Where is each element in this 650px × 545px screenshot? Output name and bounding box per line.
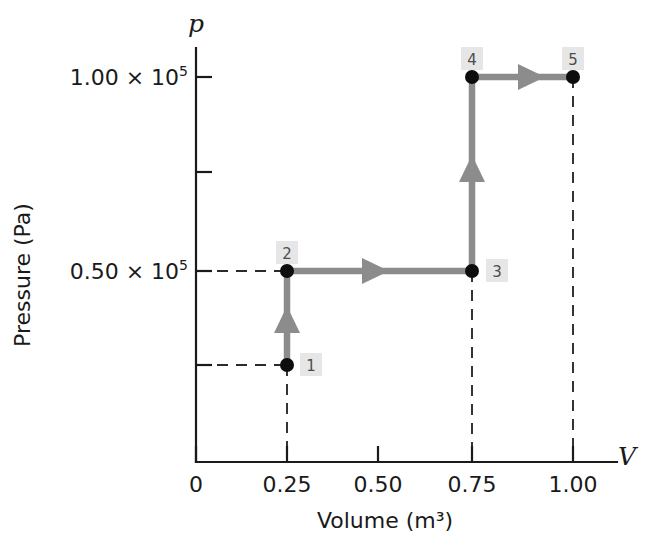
state-label-3-text: 3 — [492, 263, 502, 281]
y-tick-label-050e5: 0.50 × 105 — [70, 257, 188, 284]
state-label-5-text: 5 — [568, 51, 578, 69]
y-axis-symbol-p: p — [188, 9, 204, 38]
state-point-4[interactable] — [465, 70, 479, 84]
process-path — [286, 76, 574, 366]
state-label-1: 1 — [300, 353, 322, 376]
state-point-1[interactable] — [280, 358, 294, 372]
y-tick-labels: 1.00 × 105 0.50 × 105 — [70, 63, 188, 284]
state-label-4-text: 4 — [467, 51, 477, 69]
y-axis-ticks — [196, 77, 212, 365]
pv-diagram-figure: 1.00 × 105 0.50 × 105 0 0.25 0.50 0.75 1… — [0, 0, 650, 545]
state-label-2: 2 — [276, 241, 298, 264]
state-point-3[interactable] — [465, 264, 479, 278]
state-point-2[interactable] — [280, 264, 294, 278]
x-axis-title: Volume (m³) — [317, 508, 453, 533]
state-label-1-text: 1 — [306, 357, 316, 375]
state-label-3: 3 — [486, 259, 508, 282]
arrow-up-1-to-2 — [274, 306, 300, 333]
axes — [196, 48, 617, 462]
y-tick-label-1e5-exponent: 5 — [179, 63, 188, 79]
state-label-2-text: 2 — [282, 245, 292, 263]
arrow-up-3-to-4 — [459, 155, 485, 182]
x-axis-symbol-v: V — [618, 442, 639, 471]
y-axis-title: Pressure (Pa) — [10, 203, 35, 347]
arrow-right-2-to-3 — [362, 258, 389, 284]
state-point-5[interactable] — [566, 70, 580, 84]
process-arrowheads — [274, 64, 545, 333]
y-tick-label-050e5-exponent: 5 — [179, 257, 188, 273]
y-tick-label-050e5-mantissa: 0.50 × 10 — [70, 259, 179, 284]
x-tick-label-050: 0.50 — [354, 472, 403, 497]
x-axis-ticks — [196, 446, 573, 462]
x-tick-label-100: 1.00 — [549, 472, 598, 497]
y-tick-label-1e5: 1.00 × 105 — [70, 63, 188, 90]
x-tick-label-025: 0.25 — [263, 472, 312, 497]
x-tick-label-075: 0.75 — [448, 472, 497, 497]
state-labels: 1 2 3 4 5 — [276, 47, 584, 376]
state-label-5: 5 — [562, 47, 584, 70]
state-points — [280, 70, 580, 372]
x-tick-label-0: 0 — [189, 472, 203, 497]
pressure-volume-chart: 1.00 × 105 0.50 × 105 0 0.25 0.50 0.75 1… — [0, 0, 650, 545]
x-tick-labels: 0 0.25 0.50 0.75 1.00 — [189, 472, 597, 497]
arrow-right-4-to-5 — [518, 64, 545, 90]
state-label-4: 4 — [461, 47, 483, 70]
y-tick-label-1e5-mantissa: 1.00 × 10 — [70, 65, 179, 90]
